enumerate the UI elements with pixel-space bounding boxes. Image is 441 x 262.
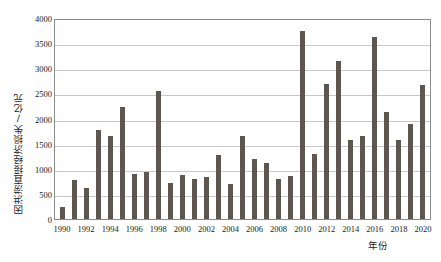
bar <box>276 179 281 219</box>
bar-slot <box>165 20 177 219</box>
bar-series <box>55 20 430 219</box>
flood-loss-bar-chart: 因洪涝直接经济损失/亿元 050010001500200025003000350… <box>0 0 441 262</box>
x-axis-title: 年份 <box>368 238 388 252</box>
bar <box>216 155 221 219</box>
bar-slot <box>296 20 308 219</box>
x-tick-label: 1998 <box>150 224 167 234</box>
bar-slot <box>105 20 117 219</box>
bar-slot <box>201 20 213 219</box>
bar <box>60 207 65 219</box>
bar-slot <box>416 20 428 219</box>
bar <box>252 159 257 219</box>
y-tick-label: 3000 <box>26 64 52 74</box>
bar <box>72 180 77 219</box>
x-tick-label: 2000 <box>174 224 191 234</box>
bar-slot <box>344 20 356 219</box>
bar-slot <box>308 20 320 219</box>
x-tick-label: 2008 <box>270 224 287 234</box>
bar <box>372 37 377 219</box>
bar-slot <box>272 20 284 219</box>
bar <box>120 107 125 219</box>
bar <box>324 84 329 219</box>
bar-slot <box>93 20 105 219</box>
x-tick-label: 2010 <box>294 224 311 234</box>
bar-slot <box>177 20 189 219</box>
y-tick-label: 3500 <box>26 39 52 49</box>
bar <box>108 136 113 219</box>
bar <box>348 140 353 219</box>
x-tick-label: 2004 <box>222 224 239 234</box>
bar <box>204 177 209 219</box>
x-tick-label: 1992 <box>78 224 95 234</box>
x-tick-label: 2014 <box>342 224 359 234</box>
y-tick-label: 4000 <box>26 14 52 24</box>
bar <box>336 61 341 219</box>
bar <box>144 172 149 219</box>
bar <box>84 188 89 219</box>
x-axis-tick-labels: 1990199219941996199820002002200420062008… <box>54 224 431 238</box>
x-tick-label: 1994 <box>102 224 119 234</box>
y-tick-label: 1500 <box>26 140 52 150</box>
bar <box>264 163 269 219</box>
bar <box>168 183 173 219</box>
bar-slot <box>153 20 165 219</box>
bar <box>360 136 365 219</box>
bar <box>192 179 197 219</box>
bar <box>132 174 137 219</box>
bar-slot <box>284 20 296 219</box>
x-tick-label: 1996 <box>126 224 143 234</box>
bar-slot <box>380 20 392 219</box>
x-tick-label: 2012 <box>318 224 335 234</box>
bar-slot <box>404 20 416 219</box>
y-tick-label: 1000 <box>26 165 52 175</box>
y-tick-label: 500 <box>26 190 52 200</box>
bar <box>396 140 401 219</box>
bar-slot <box>260 20 272 219</box>
bar-slot <box>249 20 261 219</box>
bar-slot <box>320 20 332 219</box>
bar-slot <box>129 20 141 219</box>
bar <box>288 176 293 219</box>
bar-slot <box>57 20 69 219</box>
y-tick-label: 2000 <box>26 115 52 125</box>
y-axis-tick-labels: 05001000150020002500300035004000 <box>26 0 52 262</box>
bar-slot <box>141 20 153 219</box>
bar <box>312 154 317 219</box>
bar-slot <box>213 20 225 219</box>
x-tick-label: 2018 <box>390 224 407 234</box>
bar-slot <box>368 20 380 219</box>
x-tick-label: 2002 <box>198 224 215 234</box>
x-tick-label: 2020 <box>414 224 431 234</box>
bar-slot <box>332 20 344 219</box>
bar <box>96 130 101 219</box>
bar-slot <box>225 20 237 219</box>
bar <box>408 124 413 219</box>
bar-slot <box>81 20 93 219</box>
bar <box>300 31 305 219</box>
bar-slot <box>69 20 81 219</box>
x-tick-label: 2006 <box>246 224 263 234</box>
bar-slot <box>356 20 368 219</box>
y-tick-label: 0 <box>26 215 52 225</box>
bar-slot <box>237 20 249 219</box>
bar <box>180 175 185 219</box>
bar <box>420 85 425 219</box>
y-axis-title: 因洪涝直接经济损失/亿元 <box>11 14 27 214</box>
bar-slot <box>392 20 404 219</box>
bar <box>156 91 161 219</box>
y-tick-label: 2500 <box>26 89 52 99</box>
x-tick-label: 2016 <box>366 224 383 234</box>
bar <box>384 112 389 219</box>
bar-slot <box>117 20 129 219</box>
plot-area <box>54 19 431 220</box>
bar <box>240 136 245 219</box>
bar <box>228 184 233 219</box>
bar-slot <box>189 20 201 219</box>
x-tick-label: 1990 <box>54 224 71 234</box>
